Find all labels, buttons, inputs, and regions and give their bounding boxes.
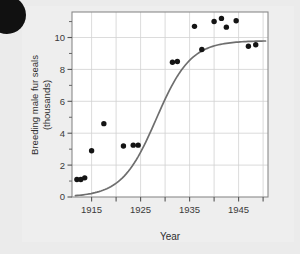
data-point <box>135 142 140 147</box>
x-tick-label: 1935 <box>179 204 200 215</box>
data-point <box>170 60 175 65</box>
x-axis-ticks <box>92 197 264 202</box>
x-tick-label: 1915 <box>81 204 102 215</box>
y-tick-label: 10 <box>54 32 65 43</box>
data-point <box>199 47 204 52</box>
data-point <box>253 42 258 47</box>
figure-container: 0246810 1915192519351945 Year Breeding m… <box>0 0 300 254</box>
data-point <box>192 24 197 29</box>
y-axis-title-line2: (thousands) <box>41 80 52 130</box>
data-point <box>82 175 87 180</box>
x-tick-label: 1925 <box>130 204 151 215</box>
data-point <box>211 19 216 24</box>
data-point <box>233 18 238 23</box>
y-tick-label: 0 <box>60 191 65 202</box>
data-point <box>246 44 251 49</box>
x-axis-title: Year <box>160 231 181 242</box>
data-point <box>175 59 180 64</box>
data-point <box>121 143 126 148</box>
x-axis-tick-labels: 1915192519351945 <box>81 204 249 215</box>
y-axis-tick-labels: 0246810 <box>54 32 65 202</box>
y-tick-label: 6 <box>60 96 65 107</box>
y-tick-label: 2 <box>60 160 65 171</box>
data-point <box>89 148 94 153</box>
data-point <box>101 121 106 126</box>
y-tick-label: 8 <box>60 64 65 75</box>
y-tick-label: 4 <box>60 128 65 139</box>
scatterplot-svg: 0246810 1915192519351945 Year Breeding m… <box>0 0 300 254</box>
data-point <box>219 16 224 21</box>
x-tick-label: 1945 <box>228 204 249 215</box>
y-axis-title-line1: Breeding male fur seals <box>29 55 40 155</box>
data-point <box>131 142 136 147</box>
data-point <box>224 24 229 29</box>
